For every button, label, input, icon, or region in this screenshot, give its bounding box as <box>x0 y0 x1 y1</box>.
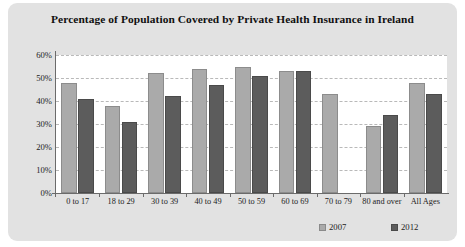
y-axis-tick-label: 30% <box>12 119 52 129</box>
bar-2007-18-to-29 <box>105 106 121 193</box>
y-axis-tick-label: 60% <box>12 50 52 60</box>
bar-2007-70-to-79 <box>322 94 338 193</box>
bar-2012-All-Ages <box>426 94 442 193</box>
bar-2012-0-to-17 <box>78 99 94 193</box>
legend-label: 2012 <box>401 222 418 232</box>
bar-2007-All-Ages <box>409 83 425 193</box>
x-axis-tick-label: 18 to 29 <box>99 197 142 206</box>
y-axis-tick-label: 0% <box>12 188 52 198</box>
bar-2007-40-to-49 <box>192 69 208 193</box>
y-axis-labels: 60%50%40%30%20%10%0% <box>8 3 52 241</box>
legend-swatch-2012 <box>391 224 398 231</box>
x-axis-tick-label: 70 to 79 <box>317 197 360 206</box>
x-axis-tick-label: All Ages <box>404 197 447 206</box>
bar-2012-30-to-39 <box>165 96 181 193</box>
bar-2012-60-to-69 <box>296 71 312 193</box>
chart-title: Percentage of Population Covered by Priv… <box>8 13 457 25</box>
y-axis-tick-label: 20% <box>12 142 52 152</box>
x-axis-tick-label: 30 to 39 <box>143 197 186 206</box>
bar-2007-80-and-over <box>366 126 382 193</box>
bar-2012-18-to-29 <box>122 122 138 193</box>
legend-label: 2007 <box>329 222 346 232</box>
legend-entry-2007[interactable]: 2007 <box>319 222 346 232</box>
y-axis-tick-label: 40% <box>12 96 52 106</box>
chart-legend: 20072012 <box>8 222 457 236</box>
bar-2007-60-to-69 <box>279 71 295 193</box>
bar-2007-0-to-17 <box>61 83 77 193</box>
bar-2007-30-to-39 <box>148 73 164 193</box>
x-axis-line <box>52 193 449 194</box>
legend-entry-2012[interactable]: 2012 <box>391 222 418 232</box>
chart-panel: Percentage of Population Covered by Priv… <box>8 3 457 241</box>
x-axis-tick-label: 0 to 17 <box>56 197 99 206</box>
bar-2012-80-and-over <box>383 115 399 193</box>
bar-2012-40-to-49 <box>209 85 225 193</box>
y-axis-tick-label: 10% <box>12 165 52 175</box>
x-axis-tick-label: 60 to 69 <box>273 197 316 206</box>
bar-2007-50-to-59 <box>235 67 251 194</box>
bar-2012-50-to-59 <box>252 76 268 193</box>
x-axis-tick-label: 40 to 49 <box>186 197 229 206</box>
gridline <box>56 55 447 56</box>
legend-swatch-2007 <box>319 224 326 231</box>
x-axis-tick-label: 80 and over <box>360 197 403 206</box>
y-axis-tick-label: 50% <box>12 73 52 83</box>
x-axis-tick-label: 50 to 59 <box>230 197 273 206</box>
